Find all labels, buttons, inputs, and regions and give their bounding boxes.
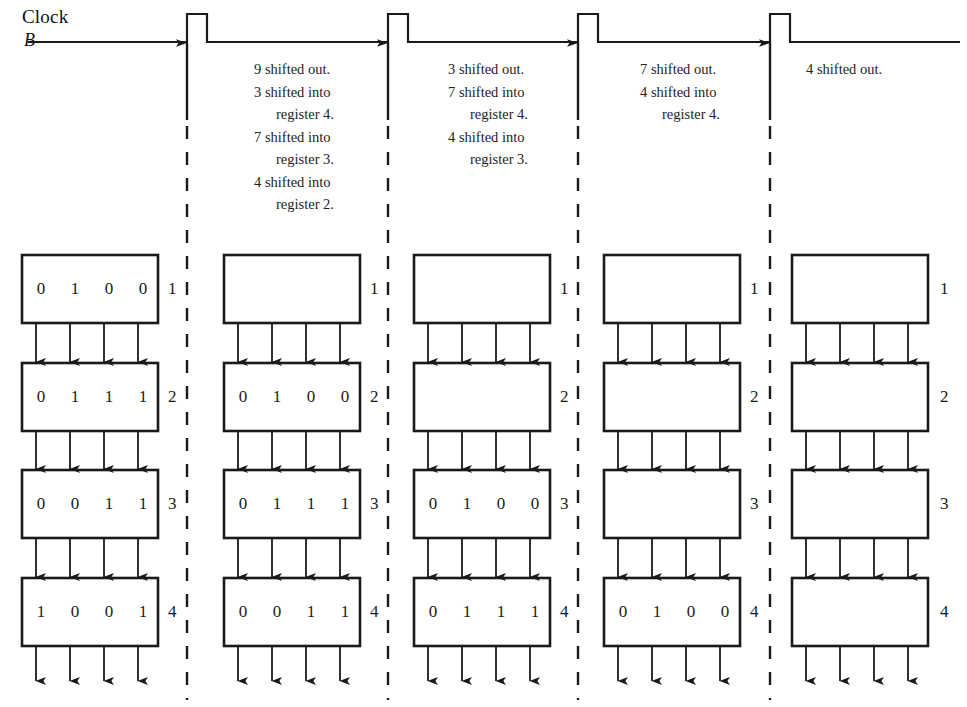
shift-annotation-line: 4 shifted into xyxy=(640,81,720,104)
register-bit: 1 xyxy=(484,603,518,620)
register-box xyxy=(604,363,740,431)
register-index-label: 1 xyxy=(370,280,379,297)
clock-label: Clock xyxy=(22,6,68,27)
register-box xyxy=(792,578,928,646)
register-bit: 1 xyxy=(260,388,294,405)
register-bit: 1 xyxy=(328,603,362,620)
register-index-label: 2 xyxy=(940,388,949,405)
register-box xyxy=(792,255,928,323)
register-index-label: 2 xyxy=(370,388,379,405)
register-bit: 0 xyxy=(226,495,260,512)
register-index-label: 1 xyxy=(940,280,949,297)
register-index-label: 1 xyxy=(168,280,177,297)
shift-annotation-line: 4 shifted out. xyxy=(806,58,882,81)
register-bit: 1 xyxy=(450,603,484,620)
register-bit: 1 xyxy=(24,603,58,620)
register-bits: 0111 xyxy=(226,495,362,512)
register-box xyxy=(792,470,928,538)
register-bit: 1 xyxy=(640,603,674,620)
register-bits: 0111 xyxy=(24,388,160,405)
register-bit: 0 xyxy=(24,388,58,405)
register-bit: 0 xyxy=(58,495,92,512)
register-bit: 0 xyxy=(92,603,126,620)
register-index-label: 4 xyxy=(560,603,569,620)
register-index-label: 1 xyxy=(560,280,569,297)
shift-annotation-line: register 2. xyxy=(254,193,334,216)
register-bit: 0 xyxy=(328,388,362,405)
register-index-label: 3 xyxy=(940,495,949,512)
register-index-label: 3 xyxy=(750,495,759,512)
shift-annotation-line: 7 shifted out. xyxy=(640,58,720,81)
diagram-canvas: Clock B 9 shifted out.3 shifted intoregi… xyxy=(0,0,967,707)
shift-annotation-line: register 4. xyxy=(640,103,720,126)
register-box-group xyxy=(22,255,928,646)
register-bit: 0 xyxy=(24,280,58,297)
register-bit: 1 xyxy=(92,495,126,512)
shift-annotation-line: 4 shifted into xyxy=(448,126,528,149)
register-index-label: 1 xyxy=(750,280,759,297)
register-bit: 1 xyxy=(58,388,92,405)
register-bit: 0 xyxy=(416,603,450,620)
register-index-label: 4 xyxy=(168,603,177,620)
register-bit: 1 xyxy=(260,495,294,512)
register-bit: 0 xyxy=(416,495,450,512)
register-bits: 0011 xyxy=(24,495,160,512)
shift-annotation-line: register 4. xyxy=(448,103,528,126)
register-box xyxy=(414,255,550,323)
register-index-label: 2 xyxy=(560,388,569,405)
shift-annotation-line: 7 shifted into xyxy=(254,126,334,149)
shift-annotation: 9 shifted out.3 shifted intoregister 4.7… xyxy=(254,58,334,216)
register-bit: 0 xyxy=(606,603,640,620)
register-bits: 0100 xyxy=(416,495,552,512)
register-box xyxy=(224,255,360,323)
shift-annotation-line: 3 shifted out. xyxy=(448,58,528,81)
register-bits: 0100 xyxy=(24,280,160,297)
register-bit: 0 xyxy=(484,495,518,512)
register-bit: 1 xyxy=(58,280,92,297)
register-bit: 0 xyxy=(24,495,58,512)
register-bit: 1 xyxy=(126,495,160,512)
shift-annotation: 3 shifted out.7 shifted intoregister 4.4… xyxy=(448,58,528,171)
register-bit: 0 xyxy=(260,603,294,620)
register-bit: 0 xyxy=(708,603,742,620)
shift-annotation-line: 9 shifted out. xyxy=(254,58,334,81)
register-bits: 0100 xyxy=(226,388,362,405)
register-index-label: 3 xyxy=(370,495,379,512)
register-bit: 0 xyxy=(674,603,708,620)
register-bit: 1 xyxy=(450,495,484,512)
shift-annotation-line: 3 shifted into xyxy=(254,81,334,104)
register-bit: 1 xyxy=(126,388,160,405)
register-index-label: 4 xyxy=(750,603,759,620)
register-bit: 0 xyxy=(126,280,160,297)
register-index-label: 4 xyxy=(370,603,379,620)
shift-annotation-line: 4 shifted into xyxy=(254,171,334,194)
register-bits: 0100 xyxy=(606,603,742,620)
register-index-label: 2 xyxy=(168,388,177,405)
shift-annotation: 7 shifted out.4 shifted intoregister 4. xyxy=(640,58,720,126)
register-bit: 1 xyxy=(92,388,126,405)
register-box xyxy=(604,470,740,538)
shift-annotation-line: 7 shifted into xyxy=(448,81,528,104)
register-bit: 1 xyxy=(294,495,328,512)
register-box xyxy=(604,255,740,323)
register-bit: 0 xyxy=(518,495,552,512)
shift-annotation-line: register 4. xyxy=(254,103,334,126)
register-bits: 0111 xyxy=(416,603,552,620)
register-bit: 1 xyxy=(518,603,552,620)
register-index-label: 3 xyxy=(560,495,569,512)
clock-waveform xyxy=(28,14,960,42)
register-bit: 0 xyxy=(226,603,260,620)
register-bit: 1 xyxy=(126,603,160,620)
register-bit: 1 xyxy=(328,495,362,512)
register-index-label: 3 xyxy=(168,495,177,512)
register-bit: 0 xyxy=(92,280,126,297)
clock-sublabel: B xyxy=(24,30,35,50)
register-index-label: 2 xyxy=(750,388,759,405)
shift-annotation-line: register 3. xyxy=(254,148,334,171)
clock-waveform-path xyxy=(28,14,960,42)
register-bits: 1001 xyxy=(24,603,160,620)
register-bits: 0011 xyxy=(226,603,362,620)
register-bit: 0 xyxy=(58,603,92,620)
shift-annotation: 4 shifted out. xyxy=(806,58,882,81)
shift-annotation-line: register 3. xyxy=(448,148,528,171)
